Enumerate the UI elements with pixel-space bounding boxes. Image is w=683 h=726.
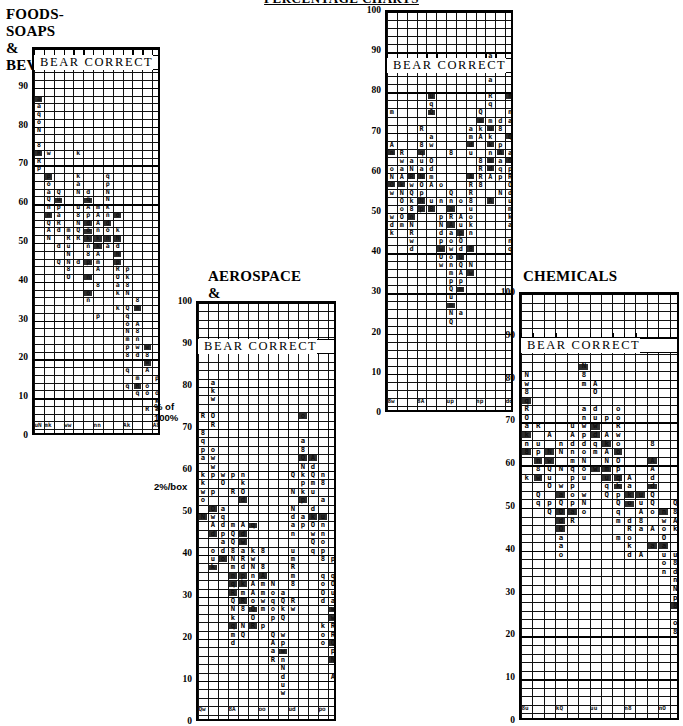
y-axis-tick-label: 80 xyxy=(353,85,381,95)
data-mark: w xyxy=(407,181,417,189)
data-mark: a xyxy=(505,221,513,229)
plot-area[interactable]: BEAR CORRECT R8qpakkwoNakwORowwppOwAdouk… xyxy=(196,301,336,721)
data-mark: 8 xyxy=(228,547,238,555)
data-mark: a xyxy=(298,437,308,445)
x-axis-mark: ww xyxy=(64,421,71,428)
data-mark: p xyxy=(578,431,589,440)
data-mark: d xyxy=(288,513,298,521)
plot-area[interactable]: BEAR CORRECT Nw8qROakn8kRupn8wQqANwQuOpQ… xyxy=(519,292,679,720)
ink-smudge xyxy=(522,449,531,455)
data-mark: R xyxy=(142,406,152,414)
data-mark: R xyxy=(476,173,486,181)
data-mark: k xyxy=(387,229,397,237)
data-mark: p xyxy=(612,491,623,500)
data-mark: n xyxy=(505,237,513,245)
y-axis-tick-label: 100 xyxy=(487,287,515,297)
y-axis-tick-label: 30 xyxy=(487,587,515,597)
ink-smudge xyxy=(84,260,91,265)
ink-smudge xyxy=(219,556,226,562)
data-mark: 8 xyxy=(635,517,646,526)
data-mark: Q xyxy=(308,471,318,479)
data-mark: p xyxy=(436,213,446,221)
ink-smudge xyxy=(45,174,52,179)
data-mark: p xyxy=(495,141,505,149)
data-mark: q xyxy=(123,383,133,391)
x-axis-mark: 8u xyxy=(522,704,529,711)
data-mark: m xyxy=(288,572,298,580)
data-mark: w xyxy=(578,491,589,500)
data-mark: R xyxy=(288,563,298,571)
data-mark: n xyxy=(446,197,456,205)
data-mark: n xyxy=(466,229,476,237)
data-mark: O xyxy=(328,580,336,588)
data-mark: Q xyxy=(670,499,679,508)
data-mark: m xyxy=(485,117,495,125)
ink-smudge xyxy=(636,492,645,498)
ink-smudge xyxy=(534,458,543,464)
ink-smudge xyxy=(545,449,554,455)
data-mark: u xyxy=(466,205,476,213)
y-axis-tick-label: 100 xyxy=(353,5,381,15)
data-mark: m xyxy=(132,375,142,383)
data-mark: u xyxy=(278,681,288,689)
data-mark: k xyxy=(278,605,288,613)
y-axis-tick-label: 20 xyxy=(0,352,28,362)
data-mark: m xyxy=(238,589,248,597)
data-mark: p xyxy=(544,499,555,508)
ink-smudge xyxy=(229,581,236,587)
data-mark: p xyxy=(456,277,466,285)
data-mark: d xyxy=(505,189,513,197)
data-mark: 8 xyxy=(476,157,486,165)
y-axis-tick-label: 30 xyxy=(0,314,28,324)
data-mark: R xyxy=(466,189,476,197)
y-axis-tick-label: 40 xyxy=(487,544,515,554)
data-mark: 8 xyxy=(258,563,268,571)
plot-area[interactable]: BEAR CORRECT mAnoNOwwdkRwaAkNOoOmaNRwQk8… xyxy=(385,10,513,412)
data-mark: u xyxy=(73,204,83,212)
data-mark: A xyxy=(44,227,54,235)
data-mark: n xyxy=(278,656,288,664)
ink-smudge xyxy=(84,221,91,226)
x-axis-mark: np xyxy=(476,397,483,404)
data-mark: q xyxy=(532,499,543,508)
data-mark: p xyxy=(218,530,228,538)
data-mark: N xyxy=(64,251,74,259)
y-axis-tick-label: 0 xyxy=(0,430,28,440)
data-mark: N xyxy=(578,499,589,508)
data-mark: N xyxy=(228,555,238,563)
data-mark: O xyxy=(208,412,218,420)
data-mark: R xyxy=(532,422,543,431)
data-mark: k xyxy=(198,471,208,479)
data-mark: p xyxy=(612,465,623,474)
x-axis-mark: 8w xyxy=(388,397,395,404)
y-axis-tick-label: 30 xyxy=(353,286,381,296)
data-mark: q xyxy=(601,482,612,491)
data-mark: m xyxy=(228,521,238,529)
data-mark: Q xyxy=(54,189,64,197)
data-mark: u xyxy=(446,293,456,301)
data-mark: p xyxy=(152,375,160,383)
data-mark: q xyxy=(485,100,495,108)
data-mark: Q xyxy=(601,491,612,500)
data-mark: N xyxy=(495,189,505,197)
data-mark: u xyxy=(208,555,218,563)
data-mark: a xyxy=(485,52,495,60)
y-axis-tick-label: 0 xyxy=(487,715,515,725)
data-mark: A xyxy=(142,367,152,375)
y-axis-tick-label: 60 xyxy=(487,458,515,468)
data-mark: O xyxy=(64,274,74,282)
data-mark: d xyxy=(436,229,446,237)
y-axis-tick-label: 50 xyxy=(164,506,192,516)
data-mark: p xyxy=(601,414,612,423)
data-mark: 8 xyxy=(495,125,505,133)
y-axis-tick-label: 60 xyxy=(164,464,192,474)
data-mark: u xyxy=(288,547,298,555)
bear-correct-label: BEAR CORRECT xyxy=(198,339,317,354)
plot-area[interactable]: BEAR CORRECT aaqoN8RRpwpoaQnnQANQupaRddQ… xyxy=(32,47,160,435)
data-mark: m xyxy=(446,269,456,277)
data-mark: O xyxy=(113,274,123,282)
y-axis-tick-label: 90 xyxy=(0,81,28,91)
data-mark: k xyxy=(238,479,248,487)
data-mark: a xyxy=(521,422,532,431)
x-axis-mark: uu xyxy=(590,704,597,711)
